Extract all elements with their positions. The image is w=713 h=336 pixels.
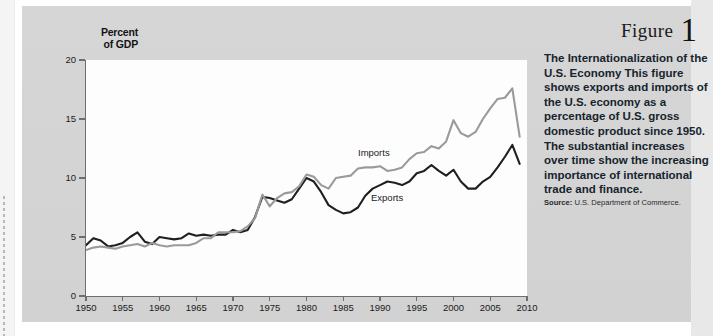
y-tick-label: 20 — [38, 54, 76, 66]
margin-rule — [14, 0, 15, 336]
x-tick — [159, 296, 160, 301]
x-tick — [379, 296, 380, 301]
x-tick-label: 1960 — [140, 302, 180, 313]
caption-text: The Internationalization of the U.S. Eco… — [544, 51, 709, 197]
y-tick — [79, 118, 85, 119]
y-axis-title-line2: of GDP — [104, 38, 138, 50]
figure-label: Figure — [621, 20, 674, 41]
caption-column: Figure1 The Internationalization of the … — [537, 6, 713, 322]
x-tick — [416, 296, 417, 301]
x-tick-label: 1970 — [213, 302, 253, 313]
series-line-exports — [86, 145, 520, 246]
series-label-exports: Exports — [371, 192, 403, 203]
perforation-marks — [3, 196, 5, 336]
figure-number: 1 — [681, 12, 698, 48]
y-tick-label: 10 — [38, 172, 76, 184]
x-tick — [232, 296, 233, 301]
x-tick-label: 2000 — [434, 302, 474, 313]
y-axis-title-line1: Percent — [101, 26, 138, 38]
x-tick-label: 1955 — [103, 302, 143, 313]
x-tick — [85, 296, 86, 301]
x-tick-label: 1975 — [250, 302, 290, 313]
caption-description: This figure shows exports and imports of… — [544, 67, 709, 196]
y-tick — [79, 177, 85, 178]
x-tick-label: 2005 — [470, 302, 510, 313]
x-tick — [196, 296, 197, 301]
x-tick — [306, 296, 307, 301]
y-tick-label: 15 — [38, 113, 76, 125]
y-axis-line — [85, 60, 86, 297]
x-tick-label: 1950 — [66, 302, 106, 313]
x-tick-label: 1995 — [397, 302, 437, 313]
x-tick-label: 1980 — [287, 302, 327, 313]
x-tick — [526, 296, 527, 301]
x-tick — [122, 296, 123, 301]
x-tick — [453, 296, 454, 301]
figure-heading: Figure1 — [537, 14, 697, 47]
x-tick — [490, 296, 491, 301]
y-tick-label: 0 — [38, 290, 76, 302]
source-text: U.S. Department of Commerce. — [574, 198, 680, 207]
y-tick — [79, 295, 85, 296]
plot-canvas — [86, 60, 527, 296]
series-label-imports: Imports — [358, 147, 390, 158]
y-axis-title: Percent of GDP — [46, 26, 138, 50]
source-label: Source: — [544, 198, 572, 207]
x-tick-label: 1990 — [360, 302, 400, 313]
x-tick — [343, 296, 344, 301]
series-line-imports — [86, 88, 520, 250]
figure-panel: Percent of GDP 05101520 1950195519601965… — [22, 6, 691, 322]
chart-svg — [86, 60, 527, 296]
caption-source: Source: U.S. Department of Commerce. — [544, 198, 710, 208]
y-tick — [79, 236, 85, 237]
y-tick — [79, 59, 85, 60]
x-tick — [269, 296, 270, 301]
chart-area: Percent of GDP 05101520 1950195519601965… — [22, 6, 522, 322]
x-tick-label: 1965 — [176, 302, 216, 313]
y-tick-label: 5 — [38, 231, 76, 243]
x-tick-label: 1985 — [323, 302, 363, 313]
